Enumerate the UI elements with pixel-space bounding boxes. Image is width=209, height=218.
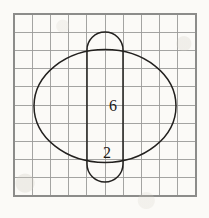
- geometry-figure: 6 2: [0, 0, 209, 218]
- label-six: 6: [109, 97, 117, 114]
- label-two: 2: [103, 144, 111, 161]
- figure-canvas: 6 2: [0, 0, 209, 218]
